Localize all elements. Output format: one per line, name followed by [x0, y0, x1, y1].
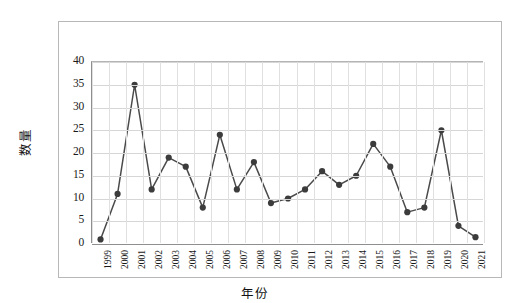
chart-figure: 数量 年份 0510152025303540 19992000200120022…	[0, 0, 509, 303]
y-tick-label: 30	[54, 101, 84, 113]
x-gridline	[211, 62, 212, 243]
x-gridline	[245, 62, 246, 243]
data-point	[234, 186, 240, 192]
x-gridline	[484, 62, 485, 243]
x-gridline	[143, 62, 144, 243]
x-tick-label: 2009	[274, 250, 284, 269]
x-tick-label: 2001	[138, 250, 148, 269]
y-tick-label: 25	[54, 123, 84, 135]
y-gridline	[92, 244, 483, 245]
data-point	[217, 132, 223, 138]
data-point	[149, 186, 155, 192]
y-tick-label: 5	[54, 214, 84, 226]
x-gridline	[92, 62, 93, 243]
data-point	[370, 141, 376, 147]
y-tick-label: 0	[54, 237, 84, 249]
x-tick-label: 2003	[172, 250, 182, 269]
data-point	[404, 209, 410, 215]
data-point	[251, 159, 257, 165]
x-gridline	[194, 62, 195, 243]
x-tick-label: 2005	[206, 250, 216, 269]
x-gridline	[279, 62, 280, 243]
x-tick-label: 2014	[359, 250, 369, 269]
x-tick-label: 2020	[461, 250, 471, 269]
data-point	[183, 164, 189, 170]
y-gridline	[92, 199, 483, 200]
x-gridline	[109, 62, 110, 243]
y-gridline	[92, 221, 483, 222]
x-tick-label: 2000	[121, 250, 131, 269]
y-tick-label: 15	[54, 169, 84, 181]
x-gridline	[314, 62, 315, 243]
x-tick-label: 2002	[155, 250, 165, 269]
y-gridline	[92, 153, 483, 154]
x-gridline	[262, 62, 263, 243]
data-point	[268, 200, 274, 206]
x-tick-label: 2006	[223, 250, 233, 269]
x-gridline	[450, 62, 451, 243]
x-gridline	[331, 62, 332, 243]
x-gridline	[365, 62, 366, 243]
x-gridline	[348, 62, 349, 243]
x-gridline	[399, 62, 400, 243]
y-tick-label: 40	[54, 55, 84, 67]
x-tick-label: 2004	[189, 250, 199, 269]
y-gridline	[92, 62, 483, 63]
x-tick-label: 1999	[104, 250, 114, 269]
x-gridline	[160, 62, 161, 243]
x-gridline	[467, 62, 468, 243]
x-tick-label: 2019	[444, 250, 454, 269]
x-gridline	[297, 62, 298, 243]
x-gridline	[382, 62, 383, 243]
x-gridline	[416, 62, 417, 243]
y-gridline	[92, 85, 483, 86]
x-tick-label: 2016	[393, 250, 403, 269]
y-tick-label: 20	[54, 146, 84, 158]
x-gridline	[126, 62, 127, 243]
data-point	[319, 168, 325, 174]
data-point	[336, 182, 342, 188]
data-point	[455, 223, 461, 229]
x-tick-label: 2008	[257, 250, 267, 269]
y-gridline	[92, 130, 483, 131]
x-tick-label: 2012	[325, 250, 335, 269]
y-tick-label: 35	[54, 78, 84, 90]
plot-area	[91, 61, 483, 243]
y-tick-label: 10	[54, 192, 84, 204]
data-point	[114, 191, 120, 197]
x-tick-label: 2011	[308, 250, 318, 269]
data-point	[166, 154, 172, 160]
x-tick-label: 2007	[240, 250, 250, 269]
y-gridline	[92, 176, 483, 177]
data-point	[97, 236, 103, 242]
data-point	[302, 186, 308, 192]
data-point	[421, 205, 427, 211]
data-point	[200, 205, 206, 211]
x-tick-label: 2018	[427, 250, 437, 269]
x-gridline	[433, 62, 434, 243]
x-tick-label: 2010	[291, 250, 301, 269]
x-gridline	[177, 62, 178, 243]
data-point	[472, 234, 478, 240]
y-gridline	[92, 108, 483, 109]
x-tick-label: 2013	[342, 250, 352, 269]
x-gridline	[228, 62, 229, 243]
x-tick-label: 2021	[478, 250, 488, 269]
data-point	[387, 164, 393, 170]
x-tick-label: 2017	[410, 250, 420, 269]
x-tick-label: 2015	[376, 250, 386, 269]
